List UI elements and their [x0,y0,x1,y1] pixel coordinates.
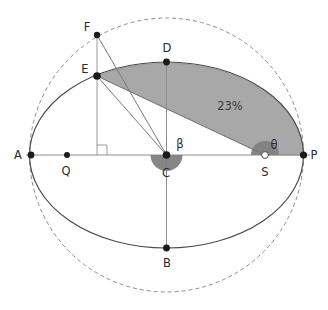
angle-label-theta: θ [270,138,277,152]
point-label-F: F [84,20,91,34]
point-marker-P[interactable] [300,151,307,158]
point-marker-E[interactable] [93,72,101,80]
point-label-B: B [163,256,171,270]
point-marker-S[interactable] [262,152,269,159]
point-marker-D[interactable] [163,59,170,66]
diagram-canvas: A Q C S P D B E F β θ 23% [0,0,328,310]
point-label-C: C [162,166,170,180]
point-label-P: P [311,148,318,162]
ellipse-orbit-diagram: A Q C S P D B E F β θ 23% [0,0,328,310]
point-label-E: E [81,62,88,76]
area-percentage-label: 23% [217,99,243,113]
point-marker-B[interactable] [163,245,170,252]
point-label-S: S [261,165,268,179]
point-marker-Q[interactable] [64,152,70,158]
point-marker-A[interactable] [28,152,35,159]
point-marker-C[interactable] [163,151,171,159]
angle-label-beta: β [176,137,183,151]
point-label-D: D [163,41,172,55]
point-label-A: A [14,148,22,162]
point-marker-F[interactable] [94,32,100,38]
point-label-Q: Q [61,164,70,178]
